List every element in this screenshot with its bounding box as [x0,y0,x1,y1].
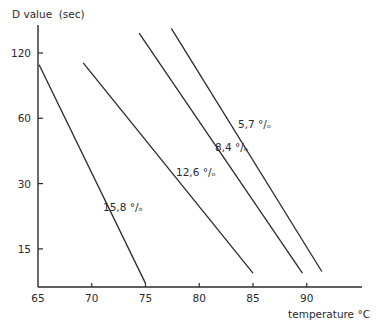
y-axis-label: D value (sec) [12,8,85,20]
series-label: 8,4 °/ₒ [215,141,248,153]
series-lines [39,28,322,283]
series-label: 12,6 °/ₒ [176,166,216,178]
series-line [83,63,253,273]
y-tick-label: 15 [18,243,31,255]
x-tick-label: 90 [300,292,313,304]
x-tick-label: 70 [85,292,98,304]
y-tick-label: 60 [18,112,31,124]
series-label: 5,7 °/ₒ [238,118,271,130]
x-tick-label: 75 [139,292,152,304]
y-tick-label: 30 [18,178,31,190]
axes [38,25,362,287]
series-label: 15,8 °/ₒ [103,201,143,213]
x-axis-label: temperature °C [288,308,370,320]
series-line [139,33,302,273]
d-value-chart: D value (sec) temperature °C 153060120 6… [0,0,382,332]
x-tick-label: 85 [246,292,259,304]
x-ticks: 657075808590 [31,283,313,304]
x-tick-label: 65 [31,292,44,304]
y-tick-label: 120 [11,47,31,59]
series-line [39,65,145,284]
x-tick-label: 80 [193,292,206,304]
series-labels: 15,8 °/ₒ12,6 °/ₒ8,4 °/ₒ5,7 °/ₒ [103,118,271,213]
